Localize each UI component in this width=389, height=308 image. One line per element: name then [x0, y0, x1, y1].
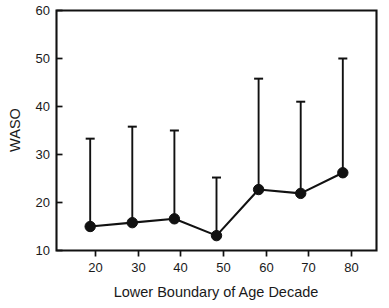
data-point-20	[85, 221, 95, 231]
y-tick-label-40: 40	[36, 99, 50, 114]
x-tick-label-40: 40	[173, 260, 187, 275]
data-point-60	[253, 184, 263, 194]
data-point-50	[211, 230, 221, 240]
x-tick-label-70: 70	[301, 260, 315, 275]
data-point-40	[169, 214, 179, 224]
x-tick-label-80: 80	[344, 260, 358, 275]
data-point-70	[296, 188, 306, 198]
x-tick-label-50: 50	[216, 260, 230, 275]
x-tick-label-20: 20	[88, 260, 102, 275]
y-tick-label-20: 20	[36, 195, 50, 210]
data-point-30	[127, 217, 137, 227]
y-tick-label-50: 50	[36, 51, 50, 66]
waso-by-age-decade-line-chart: 10 20 30 40 50 60 20 30 40 50 60 70 80	[0, 0, 389, 308]
data-point-80	[338, 168, 348, 178]
y-tick-label-10: 10	[36, 243, 50, 258]
x-tick-label-30: 30	[131, 260, 145, 275]
y-tick-label-60: 60	[36, 3, 50, 18]
chart-figure: 10 20 30 40 50 60 20 30 40 50 60 70 80	[0, 0, 389, 308]
y-tick-label-30: 30	[36, 147, 50, 162]
x-tick-label-60: 60	[259, 260, 273, 275]
y-axis-title: WASO	[7, 108, 23, 152]
x-axis-title: Lower Boundary of Age Decade	[114, 284, 319, 300]
